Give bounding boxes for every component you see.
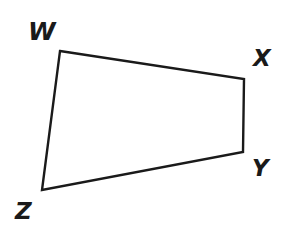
vertex-label-y: Y	[252, 157, 269, 180]
geometry-figure-canvas: W X Y Z	[0, 0, 294, 245]
vertex-label-x: X	[253, 47, 271, 70]
quadrilateral-wxyz-outline	[42, 51, 244, 190]
vertex-label-z: Z	[15, 200, 32, 223]
vertex-label-w: W	[28, 19, 56, 44]
